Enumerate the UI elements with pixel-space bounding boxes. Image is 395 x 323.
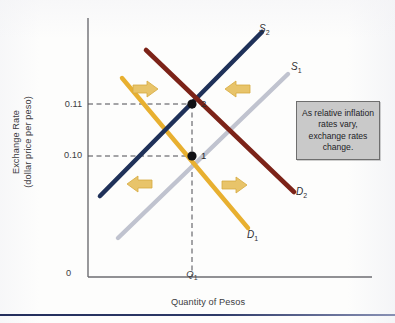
arrow-lower-right-icon (222, 177, 247, 193)
y-tick-label-010: 0.10 (44, 150, 82, 160)
curve-label-s1: S1 (291, 61, 302, 74)
callout-box-text: As relative inflation rates vary, exchan… (297, 108, 379, 154)
page-bottom-rule (0, 314, 395, 316)
equilibrium-point-1-label: 1 (201, 150, 206, 161)
curve-s2 (100, 32, 262, 196)
x-tick-label-q1-sub: 1 (194, 274, 198, 281)
curve-label-d1-sub: 1 (254, 235, 258, 242)
y-axis-title-line2: (dollar price per peso) (22, 87, 34, 197)
y-tick-label-011: 0.11 (44, 99, 82, 109)
curve-label-d2-sub: 2 (303, 192, 307, 199)
curve-label-d1: D1 (247, 229, 258, 242)
y-axis-title: Exchange Rate (dollar price per peso) (10, 87, 34, 197)
curve-label-s2-letter: S (259, 23, 266, 34)
arrow-upper-right-icon (225, 81, 250, 97)
curve-label-s1-sub: 1 (298, 67, 302, 74)
origin-label: 0 (66, 268, 80, 278)
curve-label-s1-letter: S (291, 61, 298, 72)
equilibrium-point-2-dot (187, 99, 196, 108)
curve-label-s2-sub: 2 (266, 29, 270, 36)
exchange-rate-supply-demand-figure: Exchange Rate (dollar price per peso) Qu… (0, 0, 395, 323)
equilibrium-point-2-label: 2 (201, 98, 206, 109)
curve-label-d2: D2 (296, 186, 307, 199)
curve-label-s2: S2 (259, 23, 270, 36)
callout-box: As relative inflation rates vary, exchan… (296, 101, 380, 160)
equilibrium-point-1-dot (187, 151, 196, 160)
x-tick-label-q1: Q1 (172, 268, 212, 281)
x-axis-title: Quantity of Pesos (88, 297, 328, 307)
x-tick-label-q1-letter: Q (186, 268, 193, 279)
y-axis-title-line1: Exchange Rate (11, 110, 21, 174)
arrow-lower-left-icon (127, 176, 152, 192)
